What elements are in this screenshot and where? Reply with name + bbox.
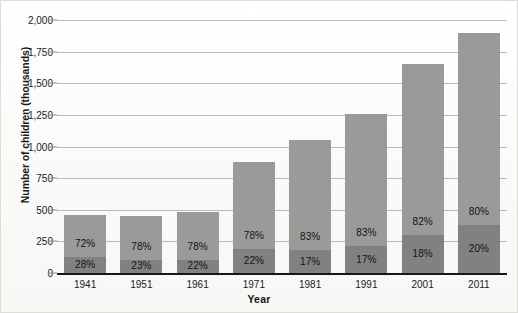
x-tick-label-1961: 1961 xyxy=(166,279,230,290)
bar-segment-lower-1951[interactable]: 23% xyxy=(120,260,162,273)
gridline-1750 xyxy=(57,52,507,53)
y-tick-label-2000: 2,000 xyxy=(0,15,53,26)
bar-2011[interactable]: 80%20% xyxy=(458,33,500,273)
bar-1971[interactable]: 78%22% xyxy=(233,162,275,273)
bar-segment-lower-1981[interactable]: 17% xyxy=(289,250,331,273)
bar-label-lower-1941: 28% xyxy=(75,260,95,270)
y-tick-label-750: 750 xyxy=(0,173,53,184)
bar-1981[interactable]: 83%17% xyxy=(289,140,331,273)
y-tick-mark-1000 xyxy=(48,146,57,147)
bar-segment-lower-1941[interactable]: 28% xyxy=(64,257,106,273)
y-tick-label-500: 500 xyxy=(0,204,53,215)
bar-segment-lower-1961[interactable]: 22% xyxy=(177,260,219,273)
bar-segment-upper-2011[interactable]: 80% xyxy=(458,33,500,225)
bar-label-lower-2011: 20% xyxy=(469,244,489,254)
y-tick-mark-500 xyxy=(48,209,57,210)
bar-label-lower-1951: 23% xyxy=(131,261,151,271)
y-tick-mark-1750 xyxy=(48,51,57,52)
bar-label-lower-1981: 17% xyxy=(300,257,320,267)
bar-1991[interactable]: 83%17% xyxy=(345,114,387,273)
y-tick-mark-0 xyxy=(48,273,57,274)
bar-label-upper-2011: 80% xyxy=(469,207,489,217)
y-tick-label-1500: 1,500 xyxy=(0,78,53,89)
y-tick-mark-1500 xyxy=(48,83,57,84)
y-tick-mark-750 xyxy=(48,178,57,179)
x-axis-baseline xyxy=(57,273,507,275)
bar-label-lower-1971: 22% xyxy=(244,256,264,266)
y-tick-label-250: 250 xyxy=(0,236,53,247)
x-tick-label-1971: 1971 xyxy=(222,279,286,290)
bar-label-upper-1971: 78% xyxy=(244,231,264,241)
bar-1951[interactable]: 78%23% xyxy=(120,216,162,273)
bar-label-lower-2001: 18% xyxy=(413,249,433,259)
x-tick-label-1951: 1951 xyxy=(109,279,173,290)
bar-label-upper-1961: 78% xyxy=(188,242,208,252)
bar-segment-upper-1981[interactable]: 83% xyxy=(289,140,331,250)
bar-label-upper-1981: 83% xyxy=(300,232,320,242)
y-tick-label-1250: 1,250 xyxy=(0,109,53,120)
bar-1961[interactable]: 78%22% xyxy=(177,212,219,273)
bar-segment-upper-2001[interactable]: 82% xyxy=(402,64,444,236)
bar-label-lower-1961: 22% xyxy=(188,261,208,271)
bar-2001[interactable]: 82%18% xyxy=(402,64,444,273)
y-tick-mark-250 xyxy=(48,241,57,242)
bar-segment-lower-2011[interactable]: 20% xyxy=(458,225,500,273)
gridline-2000 xyxy=(57,20,507,21)
bar-1941[interactable]: 72%28% xyxy=(64,215,106,273)
y-tick-mark-1250 xyxy=(48,114,57,115)
bar-label-lower-1991: 17% xyxy=(356,255,376,265)
x-tick-label-2011: 2011 xyxy=(447,279,511,290)
y-tick-label-1750: 1,750 xyxy=(0,46,53,57)
x-tick-label-1981: 1981 xyxy=(278,279,342,290)
y-tick-label-0: 0 xyxy=(0,268,53,279)
y-tick-label-1000: 1,000 xyxy=(0,141,53,152)
bar-segment-upper-1991[interactable]: 83% xyxy=(345,114,387,246)
bar-segment-upper-1971[interactable]: 78% xyxy=(233,162,275,249)
bar-label-upper-1941: 72% xyxy=(75,239,95,249)
bar-segment-upper-1951[interactable]: 78% xyxy=(120,216,162,260)
x-tick-label-2001: 2001 xyxy=(391,279,455,290)
chart-figure: Number of children (thousands) 72%28%78%… xyxy=(0,0,518,313)
bar-segment-lower-2001[interactable]: 18% xyxy=(402,235,444,273)
bar-label-upper-2001: 82% xyxy=(413,217,433,227)
bar-segment-upper-1961[interactable]: 78% xyxy=(177,212,219,260)
x-axis-title: Year xyxy=(1,293,517,305)
bar-segment-lower-1991[interactable]: 17% xyxy=(345,246,387,273)
bar-label-upper-1951: 78% xyxy=(131,242,151,252)
bar-segment-lower-1971[interactable]: 22% xyxy=(233,249,275,273)
y-tick-mark-2000 xyxy=(48,20,57,21)
x-tick-label-1941: 1941 xyxy=(53,279,117,290)
plot-area: 72%28%78%23%78%22%78%22%83%17%83%17%82%1… xyxy=(57,20,507,273)
bar-label-upper-1991: 83% xyxy=(356,228,376,238)
bar-segment-upper-1941[interactable]: 72% xyxy=(64,215,106,257)
x-tick-label-1991: 1991 xyxy=(334,279,398,290)
